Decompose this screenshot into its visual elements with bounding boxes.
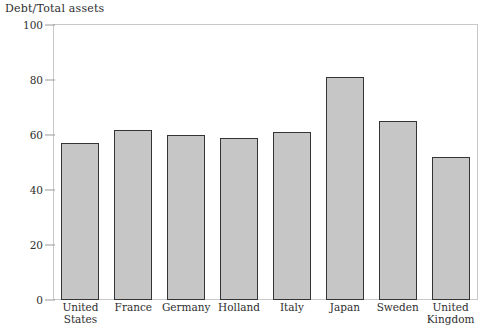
x-axis: UnitedStatesFranceGermanyHollandItalyJap… (54, 302, 477, 324)
y-axis-tick-label: 20 (3, 239, 43, 251)
bar-france (114, 130, 152, 301)
x-axis-tick-label-line: France (107, 302, 160, 314)
bar-japan (326, 77, 364, 300)
x-axis-tick-label: Italy (266, 302, 319, 314)
bar-sweden (379, 121, 417, 300)
x-axis-tick-label-line: United (424, 302, 477, 314)
y-axis-tick-label: 80 (3, 74, 43, 86)
x-axis-tick-label: Holland (213, 302, 266, 314)
y-axis: 020406080100 (0, 24, 53, 300)
x-axis-tick-label-line: Kingdom (424, 314, 477, 325)
bars-container (54, 25, 477, 300)
x-axis-tick-label: France (107, 302, 160, 314)
bar-italy (273, 132, 311, 300)
chart-title: Debt/Total assets (5, 2, 104, 15)
x-axis-tick-label: UnitedKingdom (424, 302, 477, 325)
x-axis-tick-label: UnitedStates (54, 302, 107, 325)
x-axis-tick-label-line: Holland (213, 302, 266, 314)
y-axis-tick-label: 60 (3, 129, 43, 141)
x-axis-tick-label: Germany (160, 302, 213, 314)
x-axis-tick-label-line: Japan (318, 302, 371, 314)
x-axis-tick-label: Sweden (371, 302, 424, 314)
y-axis-tick-label: 0 (3, 294, 43, 306)
bar-holland (220, 138, 258, 300)
y-axis-tick-label: 40 (3, 184, 43, 196)
y-axis-tick-label: 100 (3, 19, 43, 31)
x-axis-tick-label-line: States (54, 314, 107, 325)
bar-united-states (61, 143, 99, 300)
x-axis-tick-label-line: Italy (266, 302, 319, 314)
x-axis-tick-label-line: United (54, 302, 107, 314)
x-axis-tick-label: Japan (318, 302, 371, 314)
x-axis-tick-label-line: Germany (160, 302, 213, 314)
bar-germany (167, 135, 205, 300)
x-axis-tick-label-line: Sweden (371, 302, 424, 314)
bar-united-kingdom (432, 157, 470, 300)
